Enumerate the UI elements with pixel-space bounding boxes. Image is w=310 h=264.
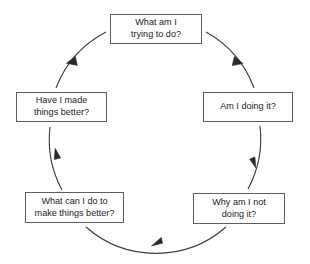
node-have-i-made-things-better-line2: things better? [34,107,89,119]
connector-right-to-bottom-right-arrowhead [250,157,256,168]
connector-bottom-right-to-bottom-left-arrowhead [152,237,163,246]
node-what-am-i-trying-to-do[interactable]: What am I trying to do? [110,14,202,44]
connector-bottom-right-to-bottom-left-path [86,227,226,253]
connector-left-to-top [56,32,106,88]
connector-bottom-left-to-left [49,127,62,190]
node-why-am-i-not-doing-it[interactable]: Why am I not doing it? [193,193,285,224]
node-have-i-made-things-better-line1: Have I made [36,95,88,107]
node-have-i-made-things-better[interactable]: Have I made things better? [16,92,107,122]
connector-right-to-bottom-right [248,126,261,189]
node-what-can-i-do-to-make-things-better[interactable]: What can I do to make things better? [25,192,124,223]
node-am-i-doing-it-line1: Am I doing it? [220,101,276,113]
connector-top-to-right [206,32,254,88]
node-why-am-i-not-doing-it-line1: Why am I not [212,197,266,209]
node-am-i-doing-it[interactable]: Am I doing it? [203,92,293,122]
connector-bottom-left-to-left-arrowhead [54,148,60,159]
connector-top-to-right-path [206,32,254,88]
cycle-diagram: What am I trying to do? Am I doing it? W… [0,0,310,264]
connector-bottom-right-to-bottom-left [86,227,226,253]
node-what-am-i-trying-to-do-line2: trying to do? [131,29,181,41]
node-why-am-i-not-doing-it-line2: doing it? [222,209,256,221]
connector-left-to-top-path [56,32,106,88]
node-what-am-i-trying-to-do-line1: What am I [135,17,176,29]
node-what-can-i-do-to-make-things-better-line2: make things better? [35,208,115,220]
node-what-can-i-do-to-make-things-better-line1: What can I do to [41,196,107,208]
